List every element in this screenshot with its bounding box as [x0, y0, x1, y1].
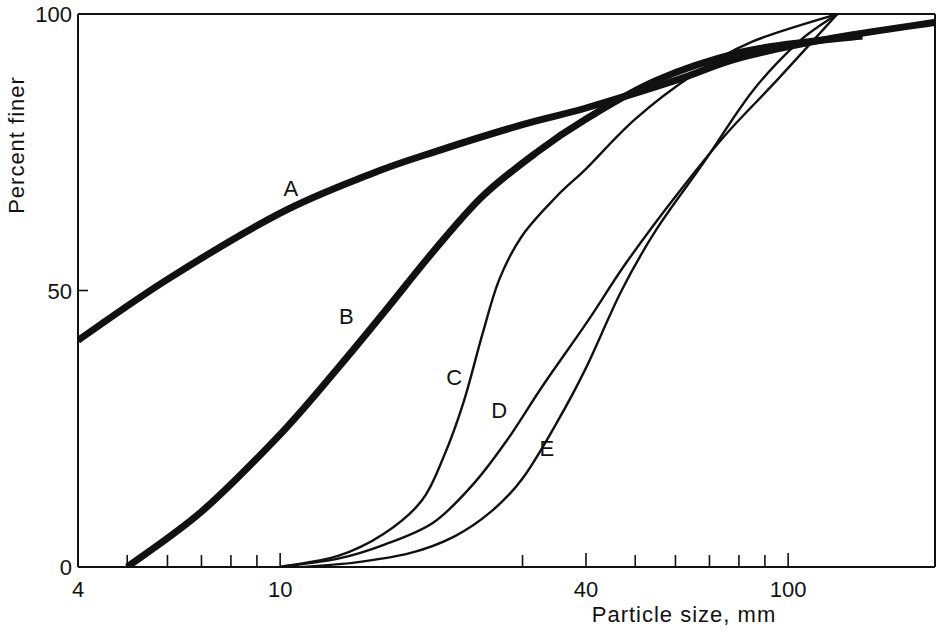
y-axis-ticks: 050100	[35, 2, 88, 580]
grain-size-chart: 41040100 050100 ABCDE Particle size, mm …	[0, 0, 938, 635]
curve-label-e: E	[540, 436, 555, 461]
curve-label-c: C	[446, 365, 462, 390]
y-tick-label: 0	[60, 555, 72, 580]
curve-label-a: A	[284, 176, 299, 201]
x-tick-label: 40	[574, 577, 598, 602]
curve-c	[280, 14, 837, 567]
y-axis-title: Percent finer	[4, 76, 29, 214]
y-tick-label: 50	[48, 279, 72, 304]
x-tick-label: 100	[770, 577, 807, 602]
curve-labels: ABCDE	[284, 176, 555, 461]
x-tick-label: 4	[72, 577, 84, 602]
curve-a	[78, 22, 936, 340]
x-tick-label: 10	[268, 577, 292, 602]
curve-label-b: B	[339, 304, 354, 329]
curve-b	[127, 36, 862, 567]
plot-frame	[78, 14, 935, 567]
x-axis-title: Particle size, mm	[592, 602, 776, 627]
x-axis-ticks: 41040100	[72, 553, 807, 602]
curve-e	[301, 14, 837, 567]
curve-label-d: D	[491, 398, 507, 423]
y-tick-label: 100	[35, 2, 72, 27]
curves	[78, 14, 936, 567]
curve-d	[280, 14, 837, 567]
